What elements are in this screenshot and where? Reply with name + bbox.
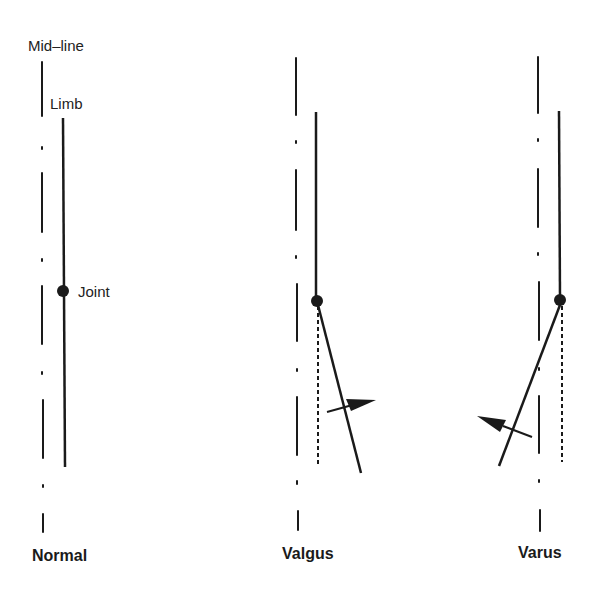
lower-limb-varus: [499, 305, 560, 466]
joint-dot-valgus: [311, 295, 323, 307]
midline-valgus: [296, 58, 298, 530]
midline-label: Mid–line: [28, 38, 84, 53]
panel-valgus: [296, 58, 376, 530]
upper-limb-varus: [559, 111, 560, 298]
panel-label-varus: Varus: [518, 545, 562, 561]
limb-label: Limb: [50, 96, 83, 111]
panel-varus: [477, 57, 566, 531]
lower-limb-valgus: [318, 305, 361, 473]
joint-dot-varus: [554, 294, 566, 306]
midline-varus: [538, 57, 540, 531]
arrow-varus: [477, 416, 532, 437]
midline-normal: [42, 62, 43, 532]
joint-label: Joint: [78, 284, 110, 299]
panel-label-valgus: Valgus: [282, 546, 334, 562]
panel-normal: [42, 62, 69, 532]
joint-dot-normal: [57, 285, 69, 297]
clipped-figure-caption: [0, 588, 600, 596]
panel-label-normal: Normal: [32, 548, 87, 564]
arrow-valgus: [327, 399, 376, 412]
